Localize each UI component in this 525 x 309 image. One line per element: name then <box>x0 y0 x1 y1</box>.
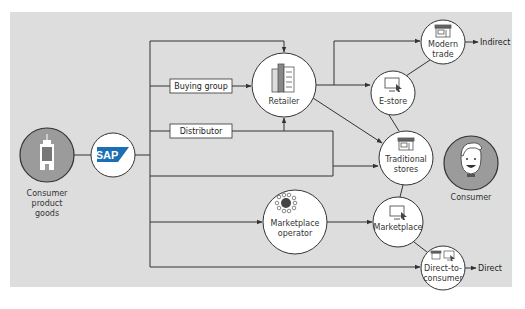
d2c-label-line2: consumer <box>423 274 463 283</box>
edge-marketplace-d2c <box>414 242 427 252</box>
node-modern-trade: Modern trade <box>421 20 465 64</box>
consumer-label: Consumer <box>451 193 493 202</box>
node-traditional-stores: Traditional stores <box>379 131 433 185</box>
node-direct-to-consumer: Direct-to- consumer <box>421 246 465 290</box>
edge-traditional-marketplace <box>400 185 403 197</box>
modern-trade-label-line2: trade <box>432 50 453 59</box>
buying-group-label: Buying group <box>174 82 227 91</box>
edge-trunk-traditional <box>150 166 333 176</box>
node-consumer: Consumer <box>444 136 498 202</box>
edge-distributor-traditional <box>232 131 378 166</box>
edge-trunk-retailer-top <box>150 41 284 52</box>
node-retailer: Retailer <box>252 53 316 117</box>
edge-moderntrade-estore <box>406 60 430 76</box>
node-marketplace: Marketplace <box>373 197 423 247</box>
cpg-label-line1: Consumer <box>27 189 69 198</box>
indirect-label: Indirect <box>480 38 510 47</box>
edge-retailer-traditional <box>313 98 382 143</box>
traditional-stores-label-line1: Traditional <box>384 155 427 164</box>
node-marketplace-operator: Marketplace operator <box>263 190 327 254</box>
channel-diagram: Consumer product goods SAP Buying group … <box>0 0 525 309</box>
marketplace-label: Marketplace <box>373 223 422 232</box>
edge-estore-traditional <box>389 115 399 131</box>
modern-trade-label-line1: Modern <box>428 40 458 49</box>
cpg-label-line3: goods <box>35 209 59 218</box>
node-consumer-product-goods: Consumer product goods <box>20 128 74 218</box>
node-e-store: E-store <box>371 71 415 115</box>
cpg-label-line2: product <box>32 199 63 208</box>
sap-logo-text: SAP <box>96 149 119 161</box>
direct-label: Direct <box>478 264 502 273</box>
e-store-label: E-store <box>379 97 407 106</box>
figure-caption <box>10 294 515 306</box>
node-buying-group: Buying group <box>170 79 232 93</box>
distributor-label: Distributor <box>180 127 223 136</box>
d2c-label-line1: Direct-to- <box>424 264 462 273</box>
marketplace-operator-label-line2: operator <box>278 229 313 238</box>
marketplace-operator-label-line1: Marketplace <box>270 219 319 228</box>
traditional-stores-label-line2: stores <box>394 165 418 174</box>
node-distributor: Distributor <box>170 124 232 138</box>
retailer-label: Retailer <box>269 97 301 106</box>
node-sap: SAP <box>91 133 135 177</box>
